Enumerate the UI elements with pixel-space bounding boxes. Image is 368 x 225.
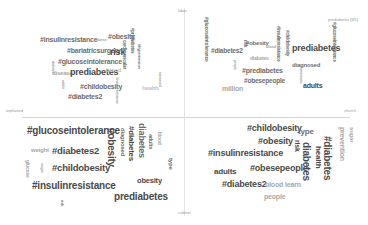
word: #insulinresistance — [276, 26, 281, 62]
word: diabetes — [51, 61, 55, 74]
word: adults — [214, 168, 236, 176]
word: #diabetes2 — [211, 48, 243, 55]
word: #diabetes2 — [68, 93, 102, 100]
word: type — [168, 158, 174, 170]
word: diabetes — [137, 123, 146, 158]
word: #diabetes — [322, 136, 332, 180]
word: #hypertension — [137, 44, 141, 69]
word: #glucoseintolerance — [204, 17, 209, 62]
word: people — [233, 60, 237, 70]
axis-label-left: orphaned — [6, 108, 23, 113]
axis-label-bottom: cabinet — [178, 210, 191, 215]
word: people — [264, 193, 285, 200]
word: learn — [285, 181, 301, 188]
word: diabetes — [250, 56, 269, 61]
word: health — [142, 85, 158, 91]
word: obesity — [137, 177, 162, 185]
word: blood — [106, 67, 121, 73]
word: health — [314, 146, 322, 168]
word-cloud-quadrant-figure: labor cabinet orphaned church prediabete… — [0, 0, 368, 225]
word: #glucoseintolerance — [332, 22, 337, 62]
word: #childobesity — [247, 124, 302, 133]
axis-label-top: labor — [178, 8, 187, 13]
word: weight — [31, 147, 49, 153]
word: #insulinresistance — [32, 181, 116, 191]
word: #glucoseintolerance — [58, 58, 122, 65]
word: million — [222, 85, 243, 92]
word: #obesepeople — [250, 164, 308, 173]
word: #insulinresistance — [208, 149, 283, 158]
word: obese — [96, 38, 107, 42]
vertical-axis — [184, 8, 185, 216]
word: adults — [303, 82, 322, 89]
word: adults — [61, 80, 65, 89]
word: risk — [294, 140, 301, 152]
word: type — [298, 128, 314, 136]
word: sugar — [40, 163, 44, 173]
word: #prediabetes — [130, 28, 135, 53]
word: blood — [265, 181, 283, 188]
word: diagnosed — [292, 62, 320, 68]
word: #insulinresistance — [115, 77, 119, 104]
horizontal-axis — [22, 117, 350, 118]
word: glucose — [25, 160, 30, 178]
word: #childobesity — [285, 30, 290, 56]
word: #diabetes2 — [52, 146, 99, 156]
word: #obesity — [258, 137, 293, 146]
word: blood — [266, 45, 276, 49]
word: #diabetes — [127, 126, 135, 161]
word: increased — [158, 72, 162, 87]
word: prevention — [339, 127, 346, 161]
word: americans — [299, 68, 303, 84]
word: risk — [60, 200, 64, 206]
word: #obesepeople — [244, 78, 285, 85]
word: #prediabetes — [242, 67, 283, 74]
word: #insulinresistance — [40, 36, 97, 43]
word: #obesity — [106, 128, 116, 167]
word: diagnosed — [120, 128, 126, 156]
word: sugar — [349, 127, 355, 142]
word: cardiovascular — [122, 40, 127, 69]
word: adults — [148, 134, 154, 149]
word: blood — [157, 132, 162, 145]
axis-label-right: church — [344, 108, 356, 113]
word: #diabetes2 — [222, 180, 267, 189]
word: #childobesity — [52, 163, 110, 173]
word: prediabetes — [114, 192, 168, 202]
word: diabetes — [301, 142, 311, 181]
